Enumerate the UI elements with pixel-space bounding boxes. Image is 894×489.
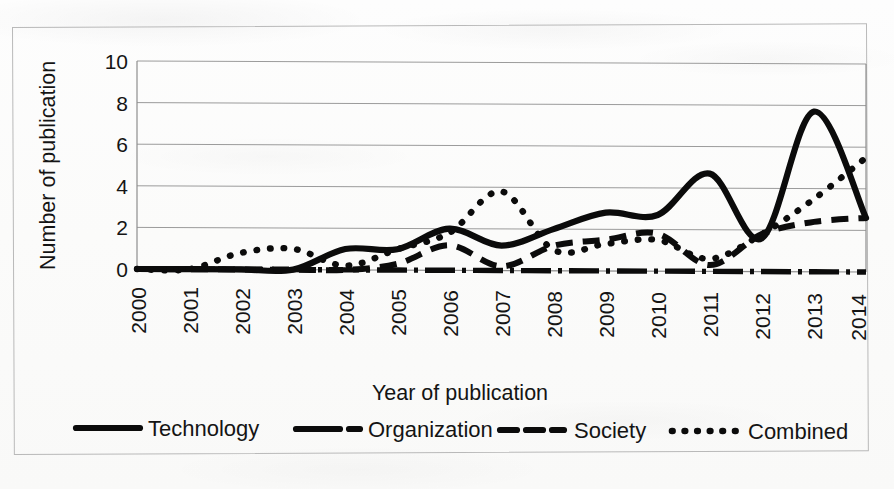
y-tick-8: 8 [116, 92, 128, 115]
x-tick-2006: 2006 [439, 290, 462, 337]
y-tick-4: 4 [116, 175, 128, 198]
gridline-8 [137, 103, 866, 106]
gridline-2 [137, 227, 866, 230]
x-tick-2003: 2003 [283, 288, 306, 335]
data-series [137, 112, 866, 272]
x-tick-labels: 2000 2001 2002 2003 2004 2005 2006 2007 … [127, 287, 870, 341]
x-tick-2011: 2011 [699, 292, 722, 337]
x-tick-2013: 2013 [803, 293, 826, 340]
y-tick-10: 10 [105, 50, 128, 73]
legend-label-organization: Organization [368, 417, 493, 442]
x-tick-2009: 2009 [595, 291, 618, 338]
gridline-4 [137, 186, 866, 189]
gridline-6 [137, 144, 866, 147]
x-tick-2007: 2007 [491, 290, 514, 337]
legend-label-society: Society [574, 418, 646, 443]
y-tick-2: 2 [116, 216, 128, 239]
x-tick-2005: 2005 [387, 289, 410, 336]
gridlines [137, 61, 866, 230]
legend-item-organization[interactable]: Organization [296, 417, 493, 442]
y-tick-0: 0 [116, 258, 128, 281]
x-tick-2001: 2001 [179, 287, 202, 334]
y-axis-title: Number of publication [36, 61, 60, 270]
x-tick-2004: 2004 [335, 289, 358, 336]
legend-item-society[interactable]: Society [500, 418, 646, 443]
x-tick-2000: 2000 [127, 287, 150, 334]
x-tick-2012: 2012 [751, 293, 774, 340]
gridline-10 [137, 61, 866, 64]
publications-line-chart: 10 8 6 4 2 0 2000 2001 2002 2003 2004 20… [0, 0, 894, 489]
x-tick-2008: 2008 [543, 291, 566, 338]
y-tick-6: 6 [116, 133, 128, 156]
chart-legend: Technology Organization Society Combined [76, 416, 848, 444]
x-tick-2010: 2010 [647, 292, 670, 339]
legend-label-technology: Technology [148, 416, 259, 441]
legend-label-combined: Combined [748, 419, 848, 444]
y-tick-labels: 10 8 6 4 2 0 [105, 50, 129, 281]
x-axis-title: Year of publication [372, 381, 548, 405]
legend-item-technology[interactable]: Technology [76, 416, 259, 441]
legend-item-combined[interactable]: Combined [672, 419, 848, 444]
x-tick-2014: 2014 [847, 294, 870, 341]
series-combined [137, 158, 866, 271]
x-tick-2002: 2002 [231, 288, 254, 335]
